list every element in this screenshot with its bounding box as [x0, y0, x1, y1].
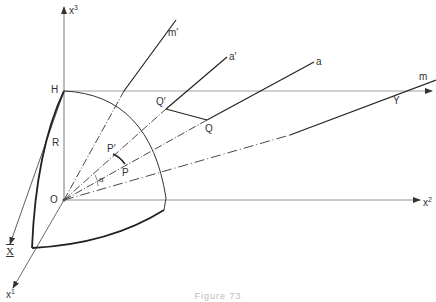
- ray-m: [290, 80, 436, 135]
- angle-alpha-arc: [95, 175, 98, 186]
- line-m-label: m: [419, 72, 427, 82]
- meridian-curve-left: [32, 91, 64, 248]
- angle-alpha-label: α: [99, 175, 104, 185]
- line-m-prime-label: m′: [168, 28, 178, 38]
- point-q-label: Q: [205, 124, 213, 134]
- segment-q-prime-q: [166, 109, 207, 120]
- line-a-label: a: [316, 57, 322, 67]
- point-p-prime-label: P′: [107, 144, 116, 154]
- segment-p-prime-p: [113, 154, 125, 164]
- line-a-prime-label: a′: [229, 52, 236, 62]
- point-p-label: P: [122, 168, 129, 178]
- origin-point: [62, 198, 65, 201]
- x3-axis-label: x3: [69, 3, 78, 16]
- y-axis-label: Y: [393, 96, 400, 106]
- ray-m-dashed: [64, 135, 290, 200]
- x2-axis-label: x2: [423, 195, 432, 208]
- figure-caption: Figure 73: [0, 291, 436, 301]
- equator-curve-bottom: [32, 210, 164, 248]
- point-h-label: H: [51, 85, 58, 95]
- x-axis-line: [10, 91, 64, 244]
- ray-a-prime: [166, 57, 227, 109]
- x-axis-label: X: [6, 246, 14, 256]
- ray-a-dashed: [64, 120, 207, 200]
- origin-label: O: [50, 195, 58, 205]
- radius-label: R: [52, 138, 59, 148]
- point-q-prime-label: Q′: [156, 97, 166, 107]
